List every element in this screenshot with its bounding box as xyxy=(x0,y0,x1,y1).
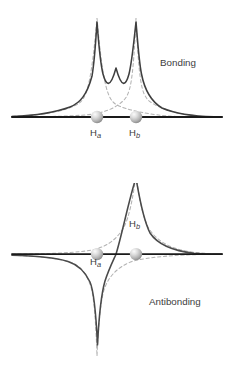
nucleus-label-ha-bonding-subscript: a xyxy=(97,131,101,140)
nucleus-label-ha-antibonding-element: H xyxy=(90,256,97,267)
nucleus-label-ha-antibonding: Ha xyxy=(90,257,101,267)
panel-bonding: Bonding Ha Hb xyxy=(0,0,230,183)
nucleus-sphere-hb-bonding xyxy=(130,111,142,123)
nucleus-label-hb-antibonding-element: H xyxy=(129,218,136,229)
nucleus-label-hb-antibonding-subscript: b xyxy=(136,222,140,231)
bonding-mode-label: Bonding xyxy=(160,58,196,68)
nucleus-label-ha-bonding: Ha xyxy=(90,128,101,138)
bonding-mo-curve xyxy=(12,22,222,117)
nucleus-label-hb-bonding-element: H xyxy=(129,127,136,138)
panel-antibonding: Antibonding Ha Hb xyxy=(0,183,230,366)
nucleus-sphere-hb-antibonding xyxy=(130,248,142,260)
antibonding-mo-curve xyxy=(12,183,222,345)
antibonding-mode-label: Antibonding xyxy=(149,297,201,307)
nucleus-label-hb-antibonding: Hb xyxy=(129,219,140,229)
nucleus-label-hb-bonding-subscript: b xyxy=(136,131,140,140)
atomic-orbital-hb-curve-antibonding xyxy=(12,183,222,254)
bonding-plot xyxy=(0,0,230,183)
nucleus-label-ha-bonding-element: H xyxy=(90,127,97,138)
figure-root: Bonding Ha Hb xyxy=(0,0,230,366)
nucleus-label-ha-antibonding-subscript: a xyxy=(97,260,101,269)
nucleus-sphere-ha-bonding xyxy=(91,111,103,123)
antibonding-plot xyxy=(0,183,230,366)
nucleus-label-hb-bonding: Hb xyxy=(129,128,140,138)
